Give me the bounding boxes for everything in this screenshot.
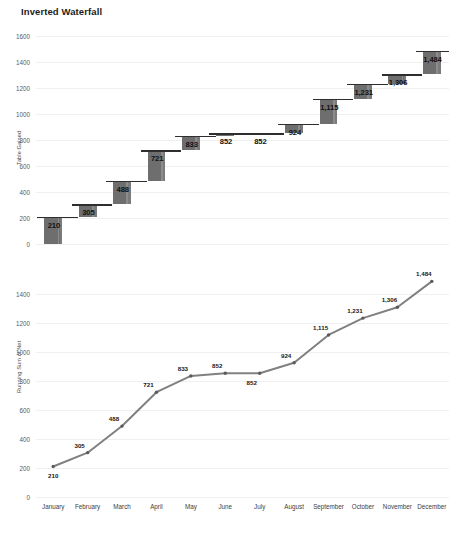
waterfall-y-tick: 1000 xyxy=(16,111,30,118)
gridline xyxy=(36,166,449,167)
waterfall-y-tick: 200 xyxy=(19,215,30,222)
line-path xyxy=(53,281,432,466)
waterfall-y-tick: 1200 xyxy=(16,85,30,92)
gridline xyxy=(36,218,449,219)
waterfall-value-label: 1,231 xyxy=(354,87,373,96)
x-axis-tick: May xyxy=(185,503,197,510)
waterfall-y-tick: 600 xyxy=(19,163,30,170)
line-marker[interactable] xyxy=(361,316,364,319)
waterfall-value-label: 488 xyxy=(117,184,129,193)
line-marker[interactable] xyxy=(258,371,261,374)
waterfall-dashboard: Inverted Waterfall Table Gained 02004006… xyxy=(0,0,459,535)
waterfall-value-label: 833 xyxy=(185,139,197,148)
waterfall-connector xyxy=(72,204,113,205)
line-marker[interactable] xyxy=(224,371,227,374)
line-value-label: 305 xyxy=(74,441,84,448)
gridline xyxy=(36,192,449,193)
x-axis-tick: March xyxy=(113,503,131,510)
waterfall-value-label: 1,306 xyxy=(389,78,408,87)
x-axis-tick: April xyxy=(150,503,163,510)
waterfall-connector xyxy=(244,133,285,134)
waterfall-connector xyxy=(37,217,78,218)
x-axis-tick: July xyxy=(254,503,265,510)
x-axis-tick: December xyxy=(417,503,446,510)
waterfall-value-label: 1,115 xyxy=(320,103,338,112)
waterfall-value-label: 305 xyxy=(82,208,94,217)
line-value-label: 1,306 xyxy=(382,296,397,303)
line-value-label: 852 xyxy=(212,362,222,369)
x-axis-tick: November xyxy=(383,503,412,510)
line-value-label: 1,115 xyxy=(313,323,328,330)
line-marker[interactable] xyxy=(396,305,399,308)
line-marker[interactable] xyxy=(155,391,158,394)
waterfall-connector xyxy=(382,74,423,75)
waterfall-y-tick: 800 xyxy=(19,137,30,144)
line-plot-area: 0200400600800100012001400210305488721833… xyxy=(36,279,449,497)
waterfall-value-label: 852 xyxy=(220,137,232,146)
waterfall-connector xyxy=(278,124,319,125)
gridline xyxy=(36,36,449,37)
x-axis-labels: JanuaryFebruaryMarchAprilMayJuneJulyAugu… xyxy=(36,501,449,525)
waterfall-connector xyxy=(313,99,354,100)
line-value-label: 488 xyxy=(109,415,119,422)
running-sum-line xyxy=(36,279,449,497)
line-y-tick: 0 xyxy=(26,494,30,501)
x-axis-tick: January xyxy=(42,503,64,510)
gridline xyxy=(36,62,449,63)
x-axis-tick: August xyxy=(284,503,304,510)
line-marker[interactable] xyxy=(120,424,123,427)
line-value-label: 210 xyxy=(48,472,58,479)
waterfall-connector xyxy=(347,84,388,85)
line-value-label: 1,484 xyxy=(416,270,431,277)
waterfall-y-tick: 400 xyxy=(19,189,30,196)
x-axis-tick: February xyxy=(75,503,100,510)
waterfall-y-tick: 1400 xyxy=(16,59,30,66)
line-y-tick: 1200 xyxy=(16,319,30,326)
line-marker[interactable] xyxy=(292,361,295,364)
waterfall-value-label: 852 xyxy=(254,137,266,146)
waterfall-value-label: 1,484 xyxy=(423,55,442,64)
gridline xyxy=(36,88,449,89)
line-value-label: 924 xyxy=(281,351,291,358)
waterfall-connector xyxy=(141,150,182,151)
line-marker[interactable] xyxy=(189,374,192,377)
waterfall-value-label: 924 xyxy=(289,127,301,136)
gridline xyxy=(36,244,449,245)
line-y-tick: 1400 xyxy=(16,290,30,297)
waterfall-connector xyxy=(416,51,449,52)
line-marker[interactable] xyxy=(430,280,433,283)
waterfall-value-label: 721 xyxy=(151,154,163,163)
line-value-label: 852 xyxy=(247,379,257,386)
waterfall-connector xyxy=(175,136,216,137)
line-value-label: 833 xyxy=(178,364,188,371)
gridline xyxy=(36,497,449,498)
waterfall-y-tick: 0 xyxy=(26,241,30,248)
line-marker[interactable] xyxy=(86,451,89,454)
x-axis-tick: September xyxy=(313,503,344,510)
line-marker[interactable] xyxy=(327,333,330,336)
x-axis-tick: June xyxy=(218,503,232,510)
line-y-tick: 600 xyxy=(19,406,30,413)
waterfall-panel: Table Gained 020040060080010001200140016… xyxy=(0,0,459,262)
line-y-tick: 200 xyxy=(19,464,30,471)
gridline xyxy=(36,114,449,115)
line-marker[interactable] xyxy=(52,465,55,468)
waterfall-plot-area: 0200400600800100012001400160021030548872… xyxy=(36,36,449,244)
gridline xyxy=(36,140,449,141)
line-value-label: 721 xyxy=(143,381,153,388)
x-axis-tick: October xyxy=(352,503,374,510)
waterfall-y-tick: 1600 xyxy=(16,33,30,40)
line-y-tick: 800 xyxy=(19,377,30,384)
line-panel: Running Sum of Net 020040060080010001200… xyxy=(0,265,459,535)
waterfall-value-label: 210 xyxy=(48,220,60,229)
line-y-tick: 400 xyxy=(19,435,30,442)
line-y-tick: 1000 xyxy=(16,348,30,355)
waterfall-connector xyxy=(106,181,147,182)
line-value-label: 1,231 xyxy=(347,307,362,314)
